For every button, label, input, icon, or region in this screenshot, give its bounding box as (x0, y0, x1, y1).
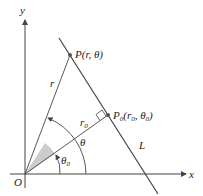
segment-r0-label: r0 (80, 116, 88, 130)
y-axis-label: y (19, 4, 25, 16)
point-P0 (106, 113, 110, 117)
point-P-label: P(r, θ) (74, 48, 103, 61)
theta0-arc (56, 155, 60, 174)
polar-line-diagram: y x O P(r, θ) P0(r0, θ0) r r0 θ θ0 L (0, 0, 203, 196)
x-axis-label: x (188, 168, 194, 180)
origin-label: O (14, 176, 22, 188)
theta-label: θ (80, 136, 86, 148)
point-P0-label: P0(r0, θ0) (112, 109, 153, 123)
right-angle-marker (96, 110, 106, 121)
point-P (68, 53, 72, 57)
theta0-label: θ0 (61, 154, 70, 168)
shaded-angle-sector (25, 143, 55, 174)
segment-r-label: r (50, 77, 55, 89)
line-L-label: L (138, 139, 145, 151)
